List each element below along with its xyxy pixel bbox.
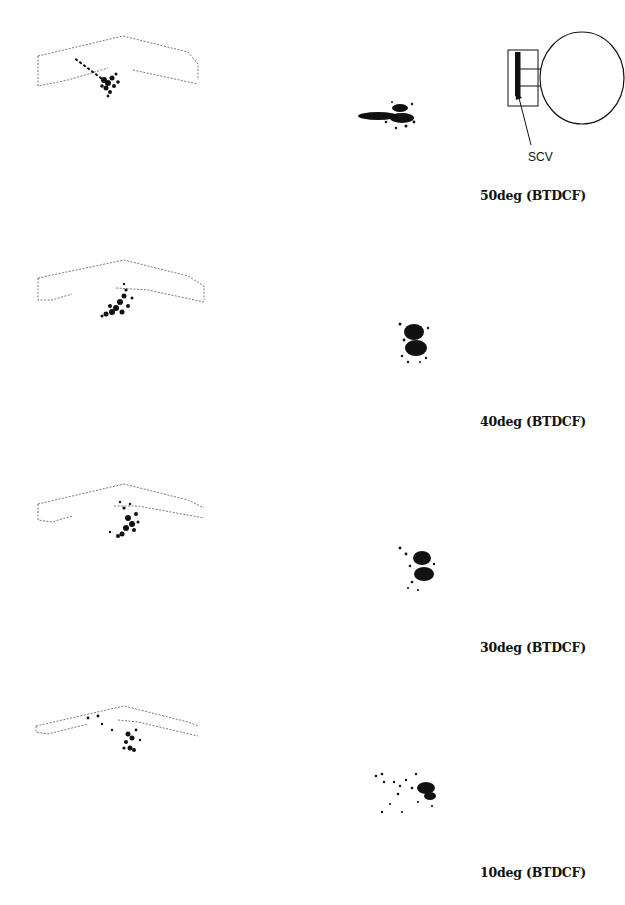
caption-50deg: 50deg (BTDCF) xyxy=(480,188,586,203)
end-view-spray-image xyxy=(372,768,442,818)
end-view-spray-image xyxy=(396,544,442,594)
end-view-spray-image xyxy=(394,318,434,368)
caption-10deg: 10deg (BTDCF) xyxy=(480,865,586,880)
side-view-spray-image xyxy=(28,478,218,558)
scv-schematic xyxy=(505,28,625,168)
scv-label: SCV xyxy=(528,150,553,164)
end-view-spray-image xyxy=(356,96,420,136)
caption-40deg: 40deg (BTDCF) xyxy=(480,414,586,429)
side-view-spray-image xyxy=(28,250,218,330)
side-view-spray-image xyxy=(28,28,218,108)
cylinder-port-schematic-icon xyxy=(505,28,625,168)
caption-30deg: 30deg (BTDCF) xyxy=(480,640,586,655)
side-view-spray-image xyxy=(28,700,218,780)
